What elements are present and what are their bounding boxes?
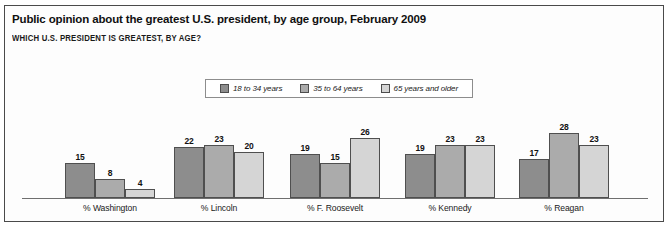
bar-value-label: 15 [65, 152, 95, 162]
bar-group: 172823 [519, 108, 609, 198]
bar[interactable] [95, 179, 125, 198]
bar-column[interactable]: 23 [465, 108, 495, 198]
chart-legend: 18 to 34 years35 to 64 years65 years and… [205, 79, 473, 98]
bar-group: 1584 [65, 108, 155, 198]
bar-value-label: 26 [350, 127, 380, 137]
category-label: % Reagan [489, 203, 639, 213]
axis-baseline [22, 198, 648, 199]
bar[interactable] [465, 145, 495, 198]
bar-column[interactable]: 17 [519, 108, 549, 198]
bar-value-label: 4 [125, 178, 155, 188]
bar-value-label: 15 [320, 152, 350, 162]
bar-column[interactable]: 23 [204, 108, 234, 198]
bar-column[interactable]: 8 [95, 108, 125, 198]
legend-item: 65 years and older [381, 84, 458, 93]
bar-group: 222320 [174, 108, 264, 198]
legend-swatch-icon [220, 84, 229, 93]
bar-value-label: 23 [579, 134, 609, 144]
bar[interactable] [65, 163, 95, 198]
bar-value-label: 8 [95, 168, 125, 178]
bar-value-label: 19 [405, 143, 435, 153]
bar[interactable] [549, 133, 579, 198]
bar-group: 191526 [290, 108, 380, 198]
bar-value-label: 20 [234, 141, 264, 151]
bar-value-label: 23 [435, 134, 465, 144]
bar-column[interactable]: 26 [350, 108, 380, 198]
legend-swatch-icon [300, 84, 309, 93]
bar-column[interactable]: 4 [125, 108, 155, 198]
chart-figure: Public opinion about the greatest U.S. p… [0, 0, 669, 230]
legend-item: 18 to 34 years [220, 84, 282, 93]
bar[interactable] [174, 147, 204, 198]
legend-label: 65 years and older [394, 84, 458, 93]
chart-title: Public opinion about the greatest U.S. p… [12, 13, 426, 25]
bar[interactable] [435, 145, 465, 198]
bar[interactable] [125, 189, 155, 198]
bar-group: 192323 [405, 108, 495, 198]
bar-value-label: 23 [204, 134, 234, 144]
bar[interactable] [234, 152, 264, 198]
bar-column[interactable]: 19 [290, 108, 320, 198]
legend-item: 35 to 64 years [300, 84, 362, 93]
bar-column[interactable]: 23 [579, 108, 609, 198]
bar-column[interactable]: 23 [435, 108, 465, 198]
bar-column[interactable]: 28 [549, 108, 579, 198]
bar-value-label: 23 [465, 134, 495, 144]
bar-value-label: 17 [519, 148, 549, 158]
legend-label: 35 to 64 years [313, 84, 362, 93]
legend-swatch-icon [381, 84, 390, 93]
bar[interactable] [204, 145, 234, 198]
bar-column[interactable]: 19 [405, 108, 435, 198]
bar-column[interactable]: 20 [234, 108, 264, 198]
bar[interactable] [579, 145, 609, 198]
bar[interactable] [519, 159, 549, 198]
bar[interactable] [320, 163, 350, 198]
chart-subtitle: WHICH U.S. PRESIDENT IS GREATEST, BY AGE… [12, 34, 201, 43]
bar-column[interactable]: 15 [65, 108, 95, 198]
bar-value-label: 28 [549, 122, 579, 132]
bar-value-label: 19 [290, 143, 320, 153]
bar-column[interactable]: 22 [174, 108, 204, 198]
legend-label: 18 to 34 years [233, 84, 282, 93]
bar-value-label: 22 [174, 136, 204, 146]
plot-area: 1584222320191526192323172823 [22, 108, 648, 198]
bar[interactable] [405, 154, 435, 198]
bar[interactable] [290, 154, 320, 198]
bar[interactable] [350, 138, 380, 198]
bar-column[interactable]: 15 [320, 108, 350, 198]
